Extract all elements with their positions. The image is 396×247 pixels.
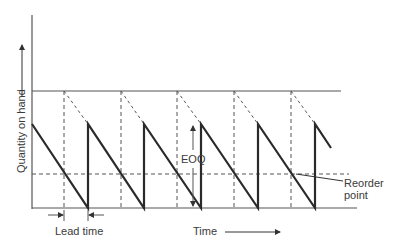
reorder-point-pointer xyxy=(296,174,343,181)
lead-time-arrows xyxy=(48,210,104,221)
eoq-label: EOQ xyxy=(181,153,206,165)
projected-demand-dashed-lines xyxy=(64,91,315,124)
x-axis-label: Time xyxy=(193,225,217,237)
reorder-point-label-line1: Reorder xyxy=(344,177,384,189)
lead-time-label: Lead time xyxy=(55,225,103,237)
inventory-sawtooth-line xyxy=(32,124,331,208)
eoq-diagram: EOQ Lead time Time Quantity on hand Reor… xyxy=(0,0,396,247)
y-axis-label: Quantity on hand xyxy=(15,89,27,173)
reorder-point-label-line2: point xyxy=(344,189,368,201)
